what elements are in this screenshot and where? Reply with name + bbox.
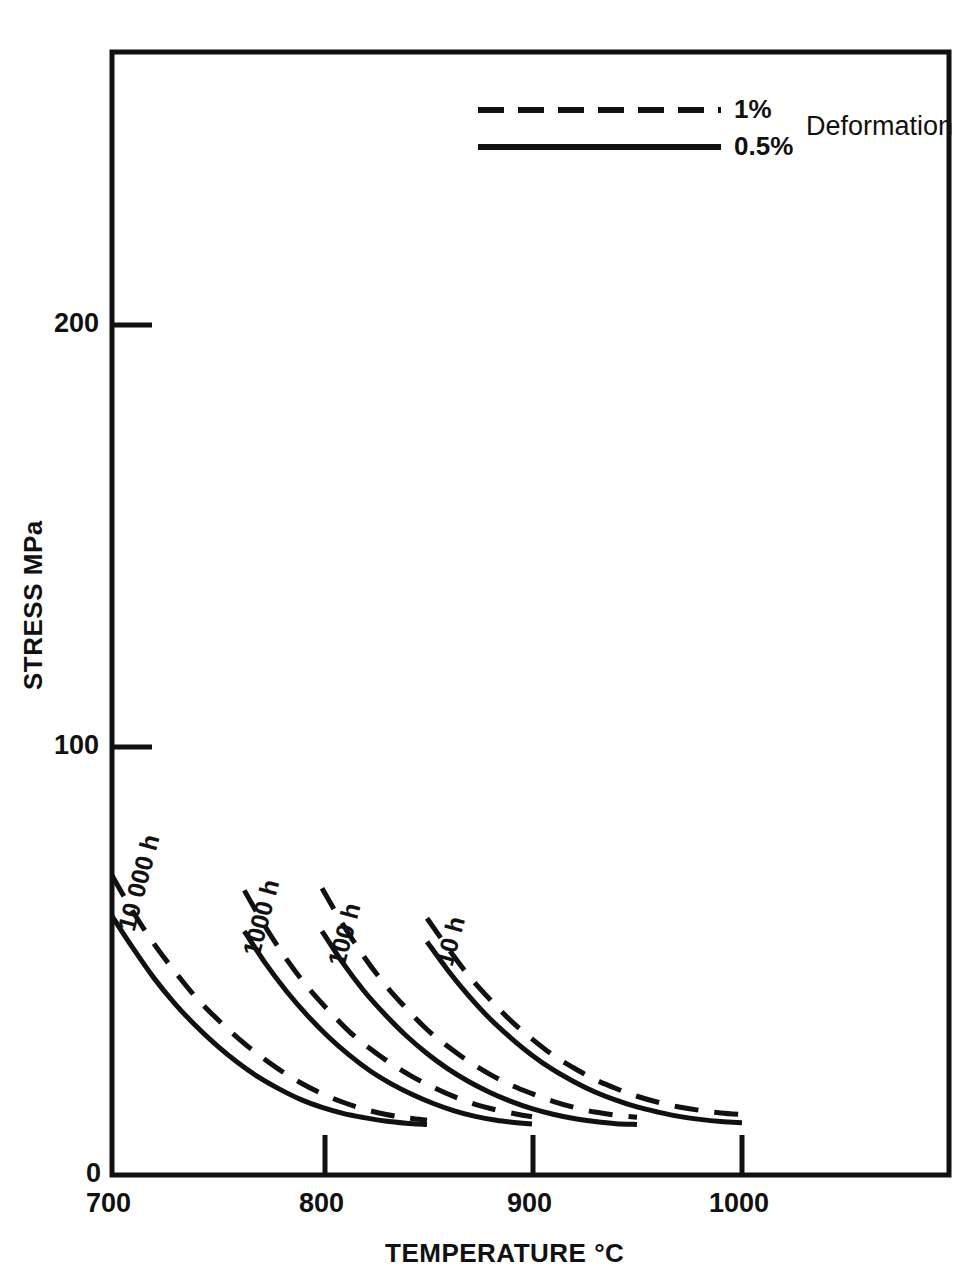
x-tick-label-1000: 1000 [709, 1188, 769, 1219]
curve-100-h-1- [322, 888, 637, 1117]
axis-frame [112, 52, 949, 1175]
data-curves [112, 875, 742, 1124]
y-tick-label-100: 100 [54, 730, 99, 761]
legend-label-half-percent: 0.5% [734, 131, 793, 162]
legend-group-label: Deformation [806, 111, 953, 142]
y-tick-label-0: 0 [86, 1158, 101, 1189]
x-tick-label-800: 800 [299, 1188, 344, 1219]
y-axis-title: STRESS MPa [18, 520, 49, 690]
x-axis-title: TEMPERATURE °C [385, 1238, 624, 1269]
legend-sample-lines [478, 110, 721, 147]
x-tick-label-900: 900 [507, 1188, 552, 1219]
chart-figure: 200 100 0 700 800 900 1000 TEMPERATURE °… [0, 0, 976, 1280]
x-axis-ticks [325, 1135, 742, 1175]
chart-plot-area [0, 0, 976, 1280]
x-tick-label-700: 700 [86, 1188, 131, 1219]
legend-label-1-percent: 1% [734, 94, 772, 125]
y-axis-ticks [112, 325, 152, 747]
curve-10-h-0-5- [427, 942, 742, 1123]
y-tick-label-200: 200 [54, 308, 99, 339]
